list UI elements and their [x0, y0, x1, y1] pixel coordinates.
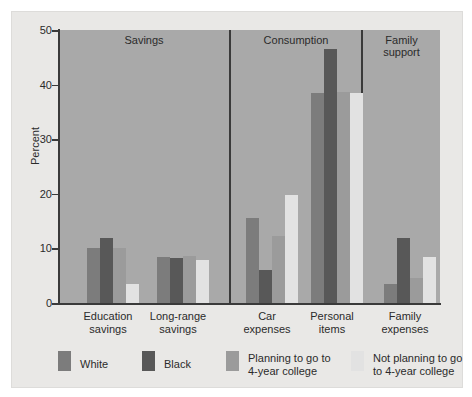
legend-label-not-planning: Not planning to go to 4-year college — [373, 352, 462, 377]
bar-family-expenses-white — [384, 284, 397, 303]
legend-swatch-planning-icon — [226, 351, 239, 371]
legend-swatch-white-icon — [58, 351, 71, 371]
bar-car-expenses-white — [246, 218, 259, 303]
x-axis-line — [58, 303, 441, 305]
y-axis-line — [58, 29, 60, 304]
bar-personal-items-not-planning — [350, 93, 363, 303]
legend-label-white: White — [80, 358, 108, 371]
y-tick-20 — [52, 194, 59, 196]
y-tick-0 — [52, 303, 59, 305]
bar-car-expenses-not-planning — [285, 195, 298, 303]
y-tick-10 — [52, 248, 59, 250]
chart-figure: Savings Consumption Family support — [11, 11, 463, 388]
bar-personal-items-white — [311, 93, 324, 303]
y-axis-title: Percent — [29, 101, 41, 191]
bar-personal-items-black — [324, 49, 337, 303]
legend-item-planning: Planning to go to 4-year college — [226, 350, 346, 380]
bar-family-expenses-not-planning — [423, 257, 436, 303]
bar-car-expenses-black — [259, 270, 272, 303]
bar-long-range-savings-white — [157, 257, 170, 303]
legend-label-black: Black — [164, 358, 191, 371]
chart-legend: White Black Planning to go to 4-year col… — [58, 350, 458, 382]
y-tick-label-50: 50 — [12, 24, 52, 36]
plot-area: Savings Consumption Family support — [59, 30, 440, 303]
y-tick-label-0: 0 — [12, 297, 52, 309]
bar-education-savings-planning — [113, 248, 126, 303]
y-tick-40 — [52, 85, 59, 87]
legend-label-planning: Planning to go to 4-year college — [248, 352, 331, 377]
legend-swatch-black-icon — [142, 351, 155, 371]
bar-education-savings-black — [100, 238, 113, 304]
y-tick-label-40: 40 — [12, 79, 52, 91]
bar-long-range-savings-not-planning — [196, 260, 209, 303]
legend-swatch-not-planning-icon — [351, 351, 364, 371]
legend-item-not-planning: Not planning to go to 4-year college — [351, 350, 472, 380]
y-tick-label-10: 10 — [12, 242, 52, 254]
category-label-family-expenses: Family expenses — [367, 310, 443, 335]
bar-education-savings-not-planning — [126, 284, 139, 303]
bar-education-savings-white — [87, 248, 100, 303]
bar-group-car-expenses — [246, 30, 304, 303]
category-label-personal-items: Personal items — [294, 310, 370, 335]
bar-family-expenses-black — [397, 238, 410, 304]
legend-item-black: Black — [142, 350, 227, 380]
category-label-education-savings: Education savings — [70, 310, 146, 335]
bar-group-family-expenses — [384, 30, 442, 303]
bar-car-expenses-planning — [272, 236, 285, 303]
legend-item-white: White — [58, 350, 143, 380]
bar-long-range-savings-black — [170, 258, 183, 303]
bar-group-personal-items — [311, 30, 369, 303]
bar-group-education-savings — [87, 30, 145, 303]
bar-group-long-range-savings — [157, 30, 215, 303]
bar-long-range-savings-planning — [183, 256, 196, 303]
bar-family-expenses-planning — [410, 278, 423, 303]
section-divider-1 — [229, 30, 231, 303]
category-label-long-range-savings: Long-range savings — [140, 310, 216, 335]
y-tick-50 — [52, 30, 59, 32]
y-tick-30 — [52, 139, 59, 141]
bar-personal-items-planning — [337, 92, 350, 303]
